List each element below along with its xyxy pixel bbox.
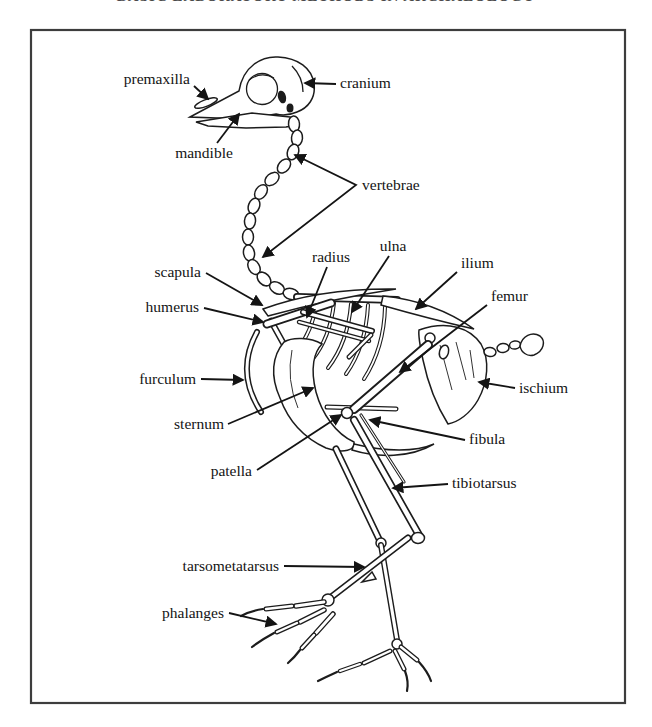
callout-phalanges: phalanges — [162, 604, 276, 624]
label-furculum: furculum — [139, 370, 196, 387]
leader-arrow — [416, 272, 457, 309]
pygostyle-bone — [520, 334, 543, 355]
legs-drawing — [241, 345, 431, 691]
leader-arrow — [204, 308, 263, 322]
callout-tarsometatarsus: tarsometatarsus — [183, 557, 364, 574]
callout-fibula: fibula — [370, 420, 505, 447]
label-humerus: humerus — [146, 298, 199, 315]
label-vertebrae: vertebrae — [362, 176, 420, 193]
label-radius: radius — [312, 248, 350, 265]
label-tibiotarsus: tibiotarsus — [452, 474, 517, 491]
label-patella: patella — [211, 462, 252, 479]
patella-bone — [342, 408, 353, 419]
callout-cranium: cranium — [305, 74, 391, 91]
callout-premaxilla: premaxilla — [124, 70, 208, 99]
label-ischium: ischium — [519, 379, 568, 396]
callout-furculum: furculum — [139, 370, 243, 387]
sternum-keel — [274, 338, 355, 450]
callout-ilium: ilium — [416, 254, 494, 309]
leader-arrow — [206, 273, 262, 305]
callout-humerus: humerus — [146, 298, 263, 322]
callout-ischium: ischium — [479, 379, 568, 396]
trunk-drawing — [247, 289, 434, 455]
label-phalanges: phalanges — [162, 604, 224, 621]
label-tarsometatarsus: tarsometatarsus — [183, 557, 279, 574]
neck-vertebrae-drawing — [242, 116, 303, 302]
leader-arrow — [194, 86, 208, 99]
leader-arrow — [229, 613, 276, 624]
label-premaxilla: premaxilla — [124, 70, 190, 87]
label-scapula: scapula — [155, 263, 202, 280]
label-sternum: sternum — [174, 415, 224, 432]
label-mandible: mandible — [175, 144, 233, 161]
callout-tibiotarsus: tibiotarsus — [393, 474, 517, 491]
bird-skeleton-drawing — [190, 57, 543, 691]
skeleton-figure: premaxilla cranium mandible vertebrae sc… — [0, 0, 652, 727]
ilium-bone — [381, 296, 474, 329]
leader-arrow — [393, 484, 448, 488]
leader-arrow — [284, 566, 364, 567]
label-ilium: ilium — [461, 254, 494, 271]
scanned-book-page: BASIC LABORATORY METHODS IN ARCHAEOLOGY — [0, 0, 652, 727]
leader-arrow — [201, 379, 243, 380]
label-fibula: fibula — [469, 430, 505, 447]
label-cranium: cranium — [340, 74, 391, 91]
label-femur: femur — [491, 287, 529, 304]
label-ulna: ulna — [380, 237, 407, 254]
leader-arrow — [305, 83, 336, 84]
